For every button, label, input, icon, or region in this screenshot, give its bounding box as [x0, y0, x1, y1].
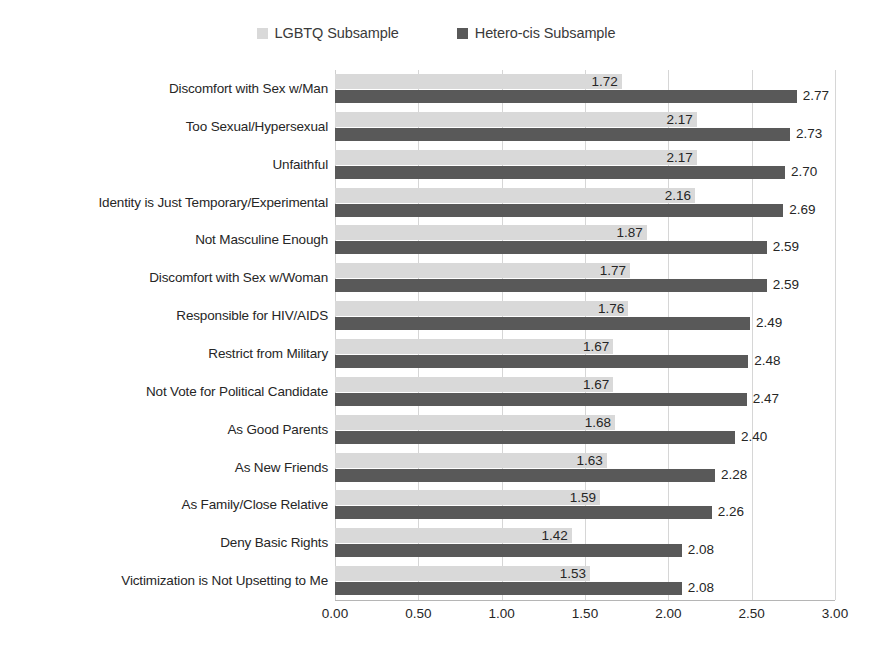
data-label-lgbtq: 2.17 [666, 111, 696, 128]
category-label: As Good Parents [28, 422, 328, 438]
x-tick-label: 2.00 [655, 606, 681, 621]
bar-group: 1.532.08 [335, 566, 835, 596]
data-label-hetero-cis: 2.59 [767, 238, 799, 255]
data-label-lgbtq: 2.16 [665, 187, 695, 204]
bar-group: 1.422.08 [335, 528, 835, 558]
bar-hetero-cis [335, 431, 735, 444]
data-label-hetero-cis: 2.77 [797, 87, 829, 104]
category-axis: Discomfort with Sex w/ManToo Sexual/Hype… [20, 70, 328, 600]
data-label-lgbtq: 1.63 [576, 452, 606, 469]
data-label-hetero-cis: 2.73 [790, 125, 822, 142]
category-label: As New Friends [28, 460, 328, 476]
bar-group: 1.672.47 [335, 377, 835, 407]
bar-lgbtq [335, 188, 695, 203]
x-tick-label: 1.00 [489, 606, 515, 621]
bar-hetero-cis [335, 128, 790, 141]
data-label-lgbtq: 1.53 [560, 565, 590, 582]
plot-area: 1.722.772.172.732.172.702.162.691.872.59… [335, 70, 835, 600]
bar-group: 2.172.73 [335, 112, 835, 142]
x-tick-label: 2.50 [739, 606, 765, 621]
category-label: Not Masculine Enough [28, 232, 328, 248]
data-label-lgbtq: 1.76 [598, 300, 628, 317]
bar-lgbtq [335, 112, 697, 127]
category-label: Unfaithful [28, 157, 328, 173]
category-label: Deny Basic Rights [28, 535, 328, 551]
bar-hetero-cis [335, 241, 767, 254]
data-label-hetero-cis: 2.28 [715, 466, 747, 483]
bar-group: 1.672.48 [335, 339, 835, 369]
category-label: Responsible for HIV/AIDS [28, 308, 328, 324]
bar-chart: LGBTQ Subsample Hetero-cis Subsample Dis… [0, 0, 872, 657]
bar-lgbtq [335, 339, 613, 354]
data-label-hetero-cis: 2.26 [712, 503, 744, 520]
bar-lgbtq [335, 453, 607, 468]
bar-hetero-cis [335, 279, 767, 292]
x-tick-label: 0.00 [322, 606, 348, 621]
data-label-lgbtq: 1.59 [570, 489, 600, 506]
bar-group: 1.772.59 [335, 263, 835, 293]
category-label: Too Sexual/Hypersexual [28, 119, 328, 135]
bar-group: 1.632.28 [335, 453, 835, 483]
bar-hetero-cis [335, 393, 747, 406]
gridline [835, 70, 836, 600]
x-tick-label: 1.50 [572, 606, 598, 621]
legend-swatch-dark-icon [457, 28, 468, 39]
data-label-hetero-cis: 2.08 [682, 579, 714, 596]
category-label: Restrict from Military [28, 346, 328, 362]
data-label-hetero-cis: 2.48 [748, 352, 780, 369]
bar-hetero-cis [335, 204, 783, 217]
legend-swatch-light-icon [257, 28, 268, 39]
bar-lgbtq [335, 150, 697, 165]
data-label-lgbtq: 1.72 [591, 73, 621, 90]
legend-entry-lgbtq: LGBTQ Subsample [257, 25, 399, 41]
category-label: Victimization is Not Upsetting to Me [28, 573, 328, 589]
data-label-lgbtq: 1.67 [583, 338, 613, 355]
data-label-hetero-cis: 2.59 [767, 276, 799, 293]
data-label-hetero-cis: 2.40 [735, 428, 767, 445]
bar-hetero-cis [335, 166, 785, 179]
legend-label-hetero-cis: Hetero-cis Subsample [475, 25, 616, 41]
data-label-hetero-cis: 2.47 [747, 390, 779, 407]
legend-entry-hetero-cis: Hetero-cis Subsample [457, 25, 616, 41]
bar-hetero-cis [335, 506, 712, 519]
bar-lgbtq [335, 74, 622, 89]
bar-group: 1.762.49 [335, 301, 835, 331]
bar-hetero-cis [335, 469, 715, 482]
x-tick-label: 0.50 [405, 606, 431, 621]
chart-legend: LGBTQ Subsample Hetero-cis Subsample [0, 25, 872, 41]
bar-group: 1.592.26 [335, 490, 835, 520]
bar-group: 2.162.69 [335, 188, 835, 218]
bar-hetero-cis [335, 90, 797, 103]
data-label-lgbtq: 1.87 [616, 224, 646, 241]
bar-lgbtq [335, 490, 600, 505]
data-label-lgbtq: 2.17 [666, 149, 696, 166]
category-label: Discomfort with Sex w/Woman [28, 270, 328, 286]
x-axis-line [335, 600, 835, 601]
data-label-lgbtq: 1.77 [600, 262, 630, 279]
bar-lgbtq [335, 225, 647, 240]
bar-lgbtq [335, 377, 613, 392]
bar-lgbtq [335, 415, 615, 430]
bar-lgbtq [335, 301, 628, 316]
data-label-hetero-cis: 2.69 [783, 201, 815, 218]
data-label-hetero-cis: 2.49 [750, 314, 782, 331]
bar-group: 1.722.77 [335, 74, 835, 104]
category-label: Not Vote for Political Candidate [28, 384, 328, 400]
bar-group: 2.172.70 [335, 150, 835, 180]
data-label-lgbtq: 1.68 [585, 414, 615, 431]
data-label-lgbtq: 1.67 [583, 376, 613, 393]
data-label-hetero-cis: 2.70 [785, 163, 817, 180]
bar-lgbtq [335, 263, 630, 278]
bar-group: 1.872.59 [335, 225, 835, 255]
bar-lgbtq [335, 566, 590, 581]
bar-hetero-cis [335, 317, 750, 330]
bar-hetero-cis [335, 544, 682, 557]
x-tick-label: 3.00 [822, 606, 848, 621]
category-label: As Family/Close Relative [28, 497, 328, 513]
legend-label-lgbtq: LGBTQ Subsample [275, 25, 399, 41]
data-label-hetero-cis: 2.08 [682, 541, 714, 558]
x-axis-ticks: 0.000.501.001.502.002.503.00 [335, 606, 835, 630]
category-label: Identity is Just Temporary/Experimental [28, 195, 328, 211]
bar-hetero-cis [335, 582, 682, 595]
category-label: Discomfort with Sex w/Man [28, 81, 328, 97]
